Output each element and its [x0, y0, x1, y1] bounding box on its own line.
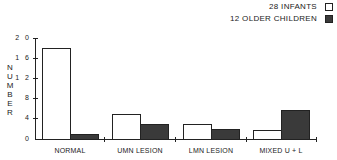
bar-normal-older-children	[70, 134, 99, 140]
x-category-label: UMN LESION	[110, 147, 170, 154]
bar-umn-older-children	[140, 124, 169, 140]
y-axis-label: N U M B E R	[5, 63, 15, 117]
y-tick-label: 0	[9, 135, 31, 143]
bar-lmn-older-children	[211, 129, 240, 140]
x-tick	[246, 137, 247, 142]
x-tick	[104, 137, 105, 142]
y-tick	[33, 78, 38, 79]
y-tick-label: 2 0	[9, 34, 31, 42]
y-tick-label: 8	[9, 94, 31, 102]
y-axis-label-letter: N	[5, 63, 15, 72]
bar-umn-infants	[112, 114, 141, 140]
x-category-label: LMN LESION	[181, 147, 241, 154]
legend: 28 INFANTS 12 OLDER CHILDREN	[200, 0, 337, 26]
y-tick	[33, 58, 38, 59]
bar-mixed-older-children	[281, 110, 310, 140]
y-tick-label: 4	[9, 114, 31, 122]
x-category-label: NORMAL	[40, 147, 100, 154]
x-tick	[316, 137, 317, 142]
y-axis-line	[35, 38, 36, 140]
bar-normal-infants	[42, 48, 71, 140]
y-tick	[33, 38, 38, 39]
x-category-label: MIXED U + L	[251, 147, 311, 154]
x-tick	[175, 137, 176, 142]
y-tick-label: 1 2	[9, 74, 31, 82]
legend-swatch-infants	[325, 3, 333, 11]
legend-label-older-children: 12 OLDER CHILDREN	[230, 14, 317, 23]
bar-mixed-infants	[253, 130, 282, 140]
legend-label-infants: 28 INFANTS	[269, 2, 317, 11]
y-tick	[33, 98, 38, 99]
legend-swatch-older-children	[325, 15, 333, 23]
y-axis-label-letter: M	[5, 81, 15, 90]
bar-lmn-infants	[183, 124, 212, 140]
y-tick-label: 1 6	[9, 54, 31, 62]
y-tick	[33, 118, 38, 119]
